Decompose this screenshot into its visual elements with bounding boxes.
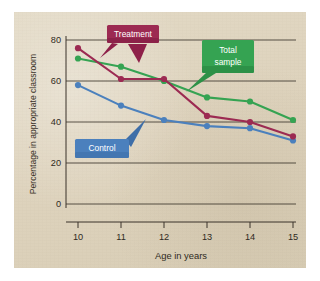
callout-total-sample-box-shade bbox=[202, 66, 254, 73]
callout-total-sample-tail bbox=[186, 72, 216, 92]
callout-treatment-tail2 bbox=[128, 44, 147, 63]
data-point bbox=[204, 123, 210, 129]
data-point bbox=[290, 133, 296, 139]
series-total-sample bbox=[75, 55, 296, 123]
data-point bbox=[75, 45, 81, 51]
series-total-sample-line bbox=[78, 59, 293, 121]
chart-figure: 80 60 40 20 0 10 11 12 13 14 15 Age in y… bbox=[0, 0, 320, 281]
y-axis-title: Percentage in appropriate classroom bbox=[28, 54, 38, 194]
data-point bbox=[161, 117, 167, 123]
data-point bbox=[118, 76, 124, 82]
data-point bbox=[247, 119, 253, 125]
data-point bbox=[118, 103, 124, 109]
callout-control[interactable]: Control bbox=[75, 119, 146, 158]
data-point bbox=[247, 125, 253, 131]
x-axis-ticks bbox=[78, 222, 293, 228]
data-point bbox=[290, 117, 296, 123]
y-tick-label-60: 60 bbox=[51, 76, 61, 86]
x-tick-label-10: 10 bbox=[73, 232, 83, 242]
x-tick-label-13: 13 bbox=[202, 232, 212, 242]
y-tick-label-20: 20 bbox=[51, 158, 61, 168]
series-treatment bbox=[75, 45, 296, 139]
data-point bbox=[161, 76, 167, 82]
x-tick-label-14: 14 bbox=[245, 232, 255, 242]
callout-treatment-label: Treatment bbox=[114, 29, 153, 39]
x-tick-label-15: 15 bbox=[288, 232, 298, 242]
data-point bbox=[247, 98, 253, 104]
y-tick-label-80: 80 bbox=[51, 35, 61, 45]
data-point bbox=[204, 94, 210, 100]
callout-total-sample-line1: Total bbox=[219, 45, 237, 55]
data-point bbox=[204, 113, 210, 119]
callout-control-label: Control bbox=[89, 143, 116, 153]
callout-total-sample-line2: sample bbox=[215, 57, 242, 67]
x-tick-label-12: 12 bbox=[159, 232, 169, 242]
callout-total-sample[interactable]: Total sample bbox=[186, 40, 254, 92]
x-tick-label-11: 11 bbox=[116, 232, 126, 242]
y-tick-label-40: 40 bbox=[51, 117, 61, 127]
callout-treatment[interactable]: Treatment bbox=[100, 25, 159, 63]
callout-treatment-tail bbox=[100, 43, 118, 58]
series-control bbox=[75, 82, 296, 144]
data-point bbox=[75, 55, 81, 61]
data-point bbox=[75, 82, 81, 88]
series-control-line bbox=[78, 85, 293, 140]
line-chart: 80 60 40 20 0 10 11 12 13 14 15 Age in y… bbox=[0, 0, 320, 281]
x-axis-title: Age in years bbox=[155, 250, 207, 261]
data-point bbox=[118, 64, 124, 70]
y-tick-label-0: 0 bbox=[56, 199, 61, 209]
